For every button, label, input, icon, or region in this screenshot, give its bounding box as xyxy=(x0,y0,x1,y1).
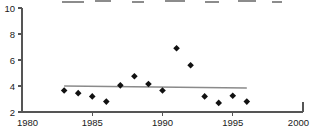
scan-smudge xyxy=(272,1,282,3)
x-tick-labels: 19801985199019952000 xyxy=(17,117,309,128)
scan-smudge xyxy=(165,0,185,2)
data-point-marker xyxy=(89,93,96,100)
scan-smudge xyxy=(132,1,144,3)
y-tick-label: 2 xyxy=(10,107,15,118)
chart-plot-area: 246810 19801985199019952000 xyxy=(0,0,327,134)
data-point-marker xyxy=(117,82,124,89)
data-point-marker xyxy=(244,98,251,105)
x-tick-label: 1995 xyxy=(222,117,243,128)
data-point-marker xyxy=(159,87,166,94)
trend-line-path xyxy=(64,86,247,88)
scan-smudge xyxy=(62,1,84,3)
scan-smudge xyxy=(95,0,111,2)
data-point-marker xyxy=(173,45,180,52)
data-points xyxy=(61,45,250,106)
data-point-marker xyxy=(229,92,236,99)
y-tick-label: 10 xyxy=(4,3,15,14)
data-point-marker xyxy=(215,100,222,107)
trend-line xyxy=(64,86,247,88)
y-tick-label: 6 xyxy=(10,55,15,66)
y-tick-labels: 246810 xyxy=(4,3,15,118)
scatter-chart: 246810 19801985199019952000 xyxy=(0,0,327,134)
data-point-marker xyxy=(75,90,82,97)
data-point-marker xyxy=(187,62,194,69)
data-point-marker xyxy=(201,93,208,100)
data-point-marker xyxy=(61,87,68,94)
data-point-marker xyxy=(103,98,110,105)
x-tick-label: 1985 xyxy=(82,117,103,128)
axes-group xyxy=(22,8,303,112)
data-point-marker xyxy=(131,73,138,80)
x-tick-label: 2000 xyxy=(288,117,309,128)
y-tick-label: 4 xyxy=(10,81,15,92)
x-tick-label: 1990 xyxy=(152,117,173,128)
scan-artifacts xyxy=(62,0,282,3)
scan-smudge xyxy=(205,1,219,3)
x-tick-label: 1980 xyxy=(17,117,38,128)
y-tick-label: 8 xyxy=(10,29,15,40)
scan-smudge xyxy=(238,0,256,2)
